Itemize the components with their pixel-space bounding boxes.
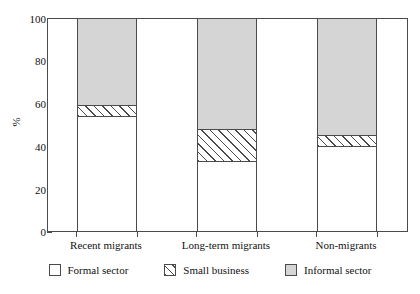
x-tick-label-non-migrants: Non-migrants bbox=[276, 239, 416, 251]
x-tick-mark bbox=[196, 232, 197, 237]
y-tick-label-0: 0 bbox=[10, 227, 46, 238]
x-tick-mark bbox=[137, 232, 138, 237]
bar-segment-formal bbox=[317, 146, 377, 231]
chart-legend: Formal sector Small business Informal se… bbox=[0, 264, 420, 276]
legend-swatch-white-icon bbox=[49, 264, 61, 276]
plot-area bbox=[47, 18, 408, 232]
y-axis-label: % bbox=[6, 112, 26, 132]
x-tick-label-recent-migrants: Recent migrants bbox=[36, 239, 176, 251]
y-tick-mark-0 bbox=[47, 232, 52, 233]
legend-label-formal-sector: Formal sector bbox=[68, 264, 129, 276]
y-tick-label-20: 20 bbox=[10, 185, 46, 196]
legend-item-small-business: Small business bbox=[164, 264, 249, 276]
x-tick-mark bbox=[377, 232, 378, 237]
legend-label-small-business: Small business bbox=[183, 264, 249, 276]
bar-segment-small-business bbox=[317, 135, 377, 146]
stacked-bar-chart: % 100 80 60 40 20 0 bbox=[0, 0, 420, 294]
legend-swatch-hatched-icon bbox=[164, 264, 176, 276]
x-tick-mark bbox=[316, 232, 317, 237]
y-tick-label-60: 60 bbox=[10, 99, 46, 110]
bar-segment-informal bbox=[77, 18, 137, 105]
bar-segment-small-business bbox=[197, 129, 257, 161]
x-tick-mark bbox=[76, 232, 77, 237]
y-tick-label-100: 100 bbox=[10, 14, 46, 25]
bar-segment-informal bbox=[197, 18, 257, 129]
legend-item-informal-sector: Informal sector bbox=[285, 264, 372, 276]
legend-item-formal-sector: Formal sector bbox=[49, 264, 129, 276]
legend-label-informal-sector: Informal sector bbox=[304, 264, 372, 276]
bar-segment-formal bbox=[197, 161, 257, 231]
y-tick-label-80: 80 bbox=[10, 56, 46, 67]
bar-segment-informal bbox=[317, 18, 377, 135]
bar-segment-formal bbox=[77, 116, 137, 231]
y-tick-label-40: 40 bbox=[10, 142, 46, 153]
x-tick-label-long-term-migrants: Long-term migrants bbox=[156, 239, 296, 251]
x-tick-mark bbox=[257, 232, 258, 237]
bar-segment-small-business bbox=[77, 105, 137, 116]
legend-swatch-gray-icon bbox=[285, 264, 297, 276]
